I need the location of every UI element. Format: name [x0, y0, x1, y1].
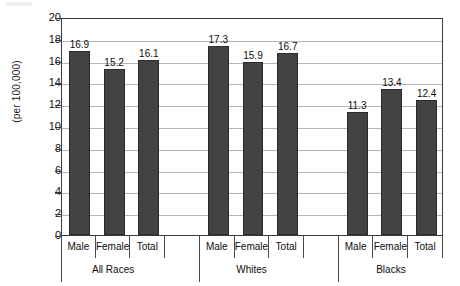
bar-value-label: 16.1 [124, 49, 174, 59]
gridline [62, 41, 442, 42]
bar [69, 51, 90, 235]
scan-artifact [6, 2, 32, 6]
bar [138, 60, 159, 235]
bar-value-label: 17.3 [193, 35, 243, 45]
x-axis-spacer-cell [165, 236, 200, 258]
x-axis-category-label: Male [61, 236, 96, 258]
x-axis-group-row: All RacesWhitesBlacks [61, 258, 443, 282]
bar [381, 89, 402, 235]
bar [347, 112, 368, 235]
bar [208, 46, 229, 235]
x-axis-group-cell: Whites [200, 258, 339, 282]
bar-chart: (per 100,000) 20181614121086420 16.915.2… [0, 0, 460, 286]
x-axis-category-label: Total [130, 236, 165, 258]
y-axis-title: (per 100,000) [11, 32, 22, 152]
x-axis-group-cell: Blacks [339, 258, 443, 282]
x-axis-group-label: Whites [236, 264, 267, 275]
bar [277, 53, 298, 235]
bar-value-label: 12.4 [402, 89, 452, 99]
x-axis-spacer-cell [304, 236, 339, 258]
x-axis-category-label: Total [269, 236, 304, 258]
x-axis: MaleFemaleTotalMaleFemaleTotalMaleFemale… [61, 236, 443, 284]
bar [416, 100, 437, 235]
bar [243, 62, 264, 235]
x-axis-category-label: Female [96, 236, 131, 258]
bar-value-label: 16.7 [263, 42, 313, 52]
x-axis-group-label: All Races [92, 264, 134, 275]
bar-value-label: 15.2 [89, 58, 139, 68]
x-axis-category-row: MaleFemaleTotalMaleFemaleTotalMaleFemale… [61, 236, 443, 258]
bar-value-label: 11.3 [332, 101, 382, 111]
x-axis-category-label: Total [408, 236, 443, 258]
bar-value-label: 15.9 [228, 51, 278, 61]
x-axis-group-cell: All Races [61, 258, 200, 282]
x-axis-category-label: Female [235, 236, 270, 258]
bar [104, 69, 125, 235]
plot-area: 16.915.216.117.315.916.711.313.412.4 [61, 18, 443, 236]
bar-value-label: 16.9 [54, 40, 104, 50]
x-axis-group-label: Blacks [376, 264, 405, 275]
x-axis-category-label: Male [339, 236, 374, 258]
x-axis-category-label: Female [373, 236, 408, 258]
bar-value-label: 13.4 [367, 78, 417, 88]
x-axis-category-label: Male [200, 236, 235, 258]
